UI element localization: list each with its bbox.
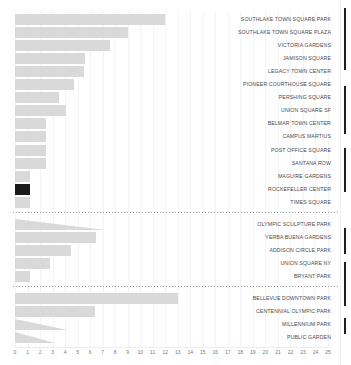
tick-label-10: 10 <box>137 349 143 355</box>
tick-label-7: 7 <box>101 349 104 355</box>
tick-label-17: 17 <box>225 349 231 355</box>
bar-pioneer-courthouse-square[interactable] <box>15 79 74 90</box>
bar-row[interactable]: BRYANT PARK <box>0 271 341 284</box>
bar-olympic-sculpture-park[interactable] <box>15 219 105 230</box>
bar-belmar-town-center[interactable] <box>15 118 46 129</box>
bar-row[interactable]: OLYMPIC SCULPTURE PARK <box>0 219 341 232</box>
scrollbar-thumb-1[interactable] <box>344 8 346 70</box>
scrollbar-thumb-4[interactable] <box>344 228 346 254</box>
bar-times-square[interactable] <box>15 197 30 208</box>
bar-row[interactable]: TIMES SQUARE <box>0 197 341 210</box>
bar-row[interactable]: CENTENNIAL OLYMPIC PARK <box>0 306 341 319</box>
bar-row[interactable]: PIONEER COURTHOUSE SQUARE <box>0 79 341 92</box>
bar-label: UNION SQUARE NY <box>280 258 331 269</box>
bar-label: SANTANA ROW <box>292 158 331 169</box>
bar-row[interactable]: YERBA BUENA GARDENS <box>0 232 341 245</box>
tick-label-13: 13 <box>175 349 181 355</box>
bar-label: PIONEER COURTHOUSE SQUARE <box>243 79 331 90</box>
bar-campus-martius[interactable] <box>15 131 46 142</box>
bar-victoria-gardens[interactable] <box>15 40 110 51</box>
bar-row[interactable]: BELMAR TOWN CENTER <box>0 118 341 131</box>
tick-label-14: 14 <box>187 349 193 355</box>
bar-row[interactable]: CAMPUS MARTIUS <box>0 131 341 144</box>
scrollbar-thumb-2[interactable] <box>344 86 346 134</box>
bar-yerba-buena-gardens[interactable] <box>15 232 96 243</box>
bar-legacy-town-center[interactable] <box>15 66 84 77</box>
bar-row[interactable]: SOUTHLAKE TOWN SQUARE PLAZA <box>0 27 341 40</box>
tick-label-19: 19 <box>250 349 256 355</box>
bar-row[interactable]: ROCKEFELLER CENTER <box>0 184 341 197</box>
bar-southlake-town-square-plaza[interactable] <box>15 27 128 38</box>
bar-row[interactable]: MAGUIRE GARDENS <box>0 171 341 184</box>
bar-label: ROCKEFELLER CENTER <box>268 184 331 195</box>
tick-label-8: 8 <box>114 349 117 355</box>
vertical-scrollbar[interactable] <box>340 0 351 365</box>
bar-row[interactable]: PUBLIC GARDEN <box>0 332 341 345</box>
bar-label: SOUTHLAKE TOWN SQUARE PARK <box>241 14 331 25</box>
bar-santana-row[interactable] <box>15 158 46 169</box>
bar-label: MAGUIRE GARDENS <box>278 171 331 182</box>
x-axis: 0123456789101112131415161718192021222324… <box>0 347 341 359</box>
bar-southlake-town-square-park[interactable] <box>15 14 165 25</box>
axis-baseline <box>15 347 328 348</box>
bar-label: PERSHING SQUARE <box>279 92 331 103</box>
bar-label: POST OFFICE SQUARE <box>271 145 331 156</box>
bar-public-garden[interactable] <box>15 332 55 343</box>
tick-label-1: 1 <box>26 349 29 355</box>
horizontal-bar-chart: SOUTHLAKE TOWN SQUARE PARKSOUTHLAKE TOWN… <box>0 0 351 365</box>
bar-row[interactable]: MILLENNIUM PARK <box>0 319 341 332</box>
plot-area[interactable]: SOUTHLAKE TOWN SQUARE PARKSOUTHLAKE TOWN… <box>0 0 341 365</box>
bar-label: VICTORIA GARDENS <box>278 40 331 51</box>
bar-label: YERBA BUENA GARDENS <box>265 232 331 243</box>
tick-label-12: 12 <box>162 349 168 355</box>
bar-bryant-park[interactable] <box>15 271 30 282</box>
bar-label: OLYMPIC SCULPTURE PARK <box>257 219 331 230</box>
tick-label-25: 25 <box>325 349 331 355</box>
bar-addison-circle-park[interactable] <box>15 245 71 256</box>
bar-row[interactable]: SOUTHLAKE TOWN SQUARE PARK <box>0 14 341 27</box>
bar-row[interactable]: POST OFFICE SQUARE <box>0 145 341 158</box>
bar-label: ADDISON CIRCLE PARK <box>269 245 331 256</box>
bar-row[interactable]: BELLEVUE DOWNTOWN PARK <box>0 293 341 306</box>
tick-label-9: 9 <box>126 349 129 355</box>
bar-row[interactable]: JAMISON SQUARE <box>0 53 341 66</box>
bar-row[interactable]: LEGACY TOWN CENTER <box>0 66 341 79</box>
bar-rockefeller-center[interactable] <box>15 184 30 195</box>
tick-label-6: 6 <box>89 349 92 355</box>
tick-label-3: 3 <box>51 349 54 355</box>
tick-label-24: 24 <box>313 349 319 355</box>
bar-label: SOUTHLAKE TOWN SQUARE PLAZA <box>238 27 331 38</box>
group-separator-2 <box>13 286 339 287</box>
bar-pershing-square[interactable] <box>15 92 59 103</box>
bar-row[interactable]: ADDISON CIRCLE PARK <box>0 245 341 258</box>
bar-centennial-olympic-park[interactable] <box>15 306 95 317</box>
tick-label-11: 11 <box>150 349 155 355</box>
bar-row[interactable]: UNION SQUARE SF <box>0 105 341 118</box>
bar-row[interactable]: SANTANA ROW <box>0 158 341 171</box>
bar-label: CENTENNIAL OLYMPIC PARK <box>256 306 331 317</box>
bar-maguire-gardens[interactable] <box>15 171 30 182</box>
tick-label-23: 23 <box>300 349 306 355</box>
tick-label-2: 2 <box>39 349 42 355</box>
bar-jamison-square[interactable] <box>15 53 85 64</box>
scrollbar-thumb-5[interactable] <box>344 262 346 306</box>
bar-row[interactable]: UNION SQUARE NY <box>0 258 341 271</box>
bar-millennium-park[interactable] <box>15 319 68 330</box>
bar-row[interactable]: PERSHING SQUARE <box>0 92 341 105</box>
bar-bellevue-downtown-park[interactable] <box>15 293 178 304</box>
bar-label: UNION SQUARE SF <box>281 105 331 116</box>
bar-label: LEGACY TOWN CENTER <box>268 66 331 77</box>
tick-label-16: 16 <box>213 349 219 355</box>
bar-label: BELMAR TOWN CENTER <box>268 118 331 129</box>
bar-union-square-sf[interactable] <box>15 105 66 116</box>
scrollbar-thumb-3[interactable] <box>344 148 346 192</box>
scrollbar-thumb-6[interactable] <box>344 318 346 334</box>
bar-row[interactable]: VICTORIA GARDENS <box>0 40 341 53</box>
tick-label-0: 0 <box>14 349 17 355</box>
bar-label: MILLENNIUM PARK <box>282 319 331 330</box>
bar-union-square-ny[interactable] <box>15 258 50 269</box>
tick-label-4: 4 <box>64 349 67 355</box>
bar-post-office-square[interactable] <box>15 145 46 156</box>
group-separator-1 <box>13 212 339 213</box>
tick-label-21: 21 <box>275 349 281 355</box>
